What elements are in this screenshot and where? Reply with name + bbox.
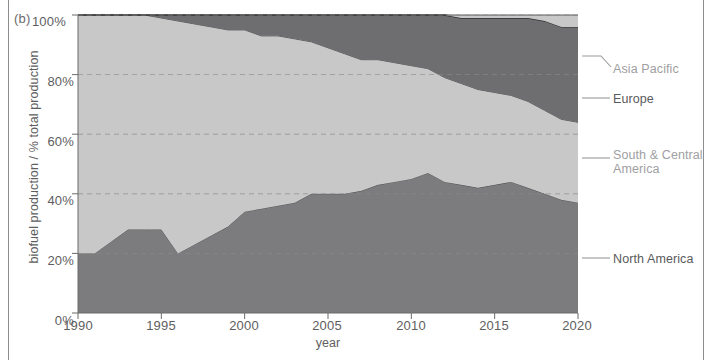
area-bands	[78, 15, 578, 313]
legend-leader-lines	[582, 56, 611, 258]
figure-panel-b: (b) biofuel production / % total product…	[0, 0, 711, 360]
legend-item-asia-pacific[interactable]: Asia Pacific	[613, 62, 705, 76]
stacked-area-plot	[0, 0, 711, 360]
legend-item-europe[interactable]: Europe	[613, 92, 705, 106]
legend-item-north-america[interactable]: North America	[613, 252, 707, 266]
legend-item-south-central-america[interactable]: South & Central America	[613, 148, 707, 176]
leader-asia-pacific	[582, 56, 611, 67]
